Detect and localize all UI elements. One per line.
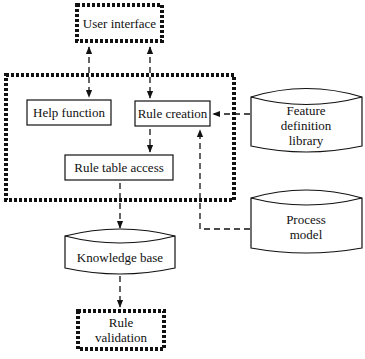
diagram-canvas: User interface Help function Rule creati… — [0, 0, 365, 359]
feature-library-node[interactable]: Feature definition library — [251, 89, 362, 153]
help-function-node[interactable]: Help function — [27, 100, 111, 125]
process-model-label-line-2: model — [290, 227, 323, 242]
rule-table-access-label: Rule table access — [74, 160, 164, 175]
user-interface-node[interactable]: User interface — [77, 5, 162, 41]
feature-library-label-line-1: Feature — [287, 103, 326, 118]
feature-library-label-line-3: library — [289, 133, 324, 148]
help-function-label: Help function — [33, 105, 105, 120]
rule-creation-node[interactable]: Rule creation — [135, 101, 210, 126]
knowledge-base-label: Knowledge base — [77, 250, 164, 265]
rule-creation-label: Rule creation — [138, 106, 208, 121]
rule-validation-label-line-2: validation — [95, 330, 147, 345]
knowledge-base-node[interactable]: Knowledge base — [65, 229, 175, 274]
rule-table-access-node[interactable]: Rule table access — [65, 155, 173, 180]
process-model-node[interactable]: Process model — [251, 190, 362, 253]
user-interface-label: User interface — [83, 16, 156, 31]
rule-validation-node[interactable]: Rule validation — [78, 311, 164, 349]
rule-validation-label-line-1: Rule — [109, 315, 134, 330]
process-model-label-line-1: Process — [286, 212, 326, 227]
feature-library-label-line-2: definition — [281, 118, 332, 133]
edge-process-model-rule-creation — [200, 130, 250, 229]
